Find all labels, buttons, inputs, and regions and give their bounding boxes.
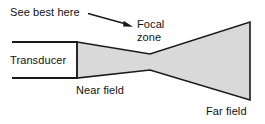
label-near-field: Near field: [76, 84, 124, 96]
ultrasound-beam-diagram: See best here Focal zone Transducer Near…: [0, 0, 265, 124]
annotation-arrow: [88, 14, 133, 27]
arrow-head-icon: [123, 21, 133, 27]
label-focal-zone-line1: Focal: [137, 18, 164, 30]
label-far-field: Far field: [206, 105, 247, 117]
label-see-best-here: See best here: [10, 6, 80, 18]
label-focal-zone-line2: zone: [137, 31, 161, 43]
arrow-shaft: [88, 14, 126, 25]
label-transducer: Transducer: [10, 54, 66, 66]
